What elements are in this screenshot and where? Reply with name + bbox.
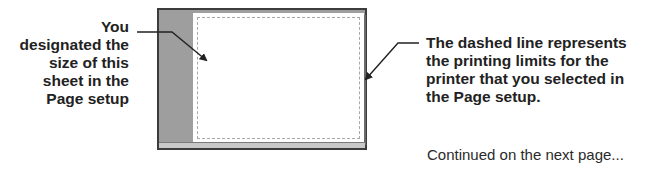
callout-line: The dashed line represents	[426, 34, 647, 52]
callout-line: the printing limits for the	[426, 52, 647, 70]
left-arrow-icon	[137, 32, 206, 60]
callout-line: the Page setup.	[426, 88, 647, 106]
callout-line: printer that you selected in	[426, 70, 647, 88]
right-arrow-icon	[366, 43, 419, 79]
printing-limits-callout-text: The dashed line represents the printing …	[426, 34, 647, 106]
continued-note: Continued on the next page...	[427, 146, 624, 164]
